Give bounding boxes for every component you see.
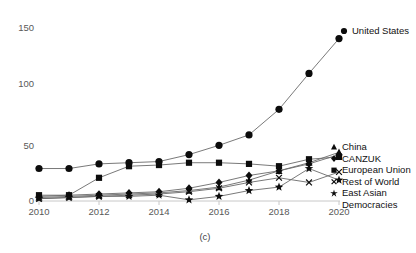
series-layer xyxy=(35,35,344,203)
x-tick-2010: 2010 xyxy=(28,206,49,217)
legend-marker-circle-icon xyxy=(341,28,347,34)
data-point xyxy=(156,162,162,168)
data-point xyxy=(245,186,254,194)
series-line xyxy=(39,39,339,169)
series-line xyxy=(39,169,339,200)
chart-canvas: 150 100 50 0 2010 2012 2014 2016 2018 20… xyxy=(0,0,416,253)
data-point xyxy=(126,163,132,169)
data-point xyxy=(216,160,222,166)
data-point xyxy=(335,35,342,42)
data-point xyxy=(215,142,222,149)
legend-marker-square-icon xyxy=(331,168,336,173)
y-tick-150: 150 xyxy=(18,22,34,33)
series-east-asian-democracies xyxy=(35,164,344,203)
legend-label[interactable]: CANZUK xyxy=(342,153,382,164)
legend-marker-star-icon xyxy=(330,189,338,196)
data-point xyxy=(35,165,42,172)
legend-marker-triangle-icon xyxy=(331,144,337,150)
legend-marker-cross-icon xyxy=(332,179,337,184)
legend-label[interactable]: Democracies xyxy=(342,199,398,210)
data-point xyxy=(276,163,282,169)
data-point xyxy=(275,183,284,191)
x-axis-tick-labels: 2010 2012 2014 2016 2018 2020 xyxy=(28,206,349,217)
data-point xyxy=(305,70,312,77)
x-tick-2016: 2016 xyxy=(208,206,229,217)
legend-top: United States xyxy=(341,25,409,36)
data-point xyxy=(65,165,72,172)
legend-bottom: ChinaCANZUKEuropean UnionRest of WorldEa… xyxy=(330,141,410,210)
y-axis-tick-labels: 150 100 50 0 xyxy=(18,22,34,206)
series-united-states xyxy=(35,35,342,172)
data-point xyxy=(186,160,192,166)
y-tick-0: 0 xyxy=(29,195,34,206)
line-chart-figure: 150 100 50 0 2010 2012 2014 2016 2018 20… xyxy=(0,0,416,253)
x-tick-2014: 2014 xyxy=(148,206,169,217)
data-point xyxy=(95,160,102,167)
data-point xyxy=(245,131,252,138)
data-point xyxy=(275,106,282,113)
data-point xyxy=(246,161,252,167)
legend-label[interactable]: United States xyxy=(352,25,409,36)
legend-label[interactable]: Rest of World xyxy=(342,176,399,187)
data-point xyxy=(246,172,253,180)
data-point xyxy=(185,151,192,158)
data-point xyxy=(306,156,312,162)
data-point xyxy=(215,192,224,200)
figure-caption: (c) xyxy=(199,231,210,242)
legend-label[interactable]: European Union xyxy=(342,164,411,175)
legend-label[interactable]: China xyxy=(342,141,368,152)
data-point xyxy=(96,175,102,181)
data-point xyxy=(185,195,194,203)
legend-label[interactable]: East Asian xyxy=(342,187,387,198)
y-tick-100: 100 xyxy=(18,78,34,89)
x-tick-2018: 2018 xyxy=(268,206,289,217)
y-tick-50: 50 xyxy=(23,140,34,151)
x-tick-2012: 2012 xyxy=(88,206,109,217)
